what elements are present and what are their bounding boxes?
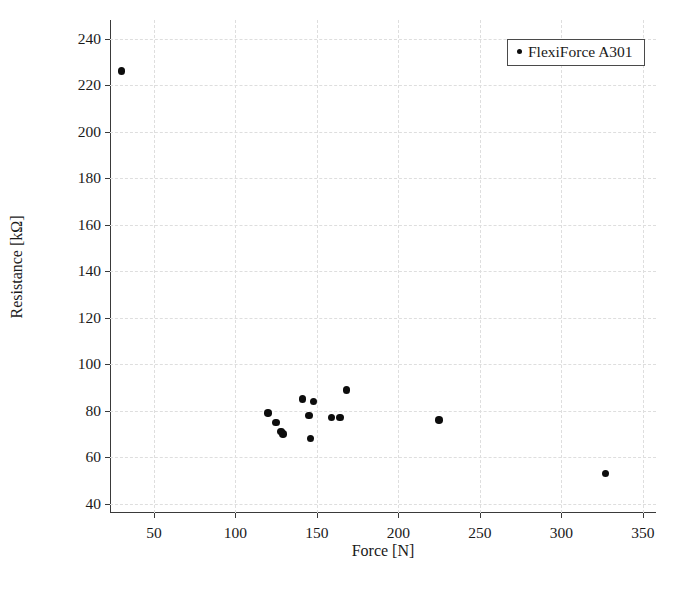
y-axis-title: Resistance [kΩ] [0, 20, 34, 513]
gridline-horizontal [110, 318, 656, 319]
x-tick-mark [235, 513, 236, 518]
gridline-vertical [398, 20, 399, 513]
x-tick-mark [154, 513, 155, 518]
x-tick-label: 350 [631, 525, 654, 541]
plot-area: 406080100120140160180200220240 501001502… [110, 20, 656, 513]
y-tick-label: 60 [86, 449, 102, 465]
gridline-horizontal [110, 271, 656, 272]
x-tick-mark [480, 513, 481, 518]
y-tick-mark [105, 318, 110, 319]
y-tick-label: 160 [78, 217, 101, 233]
gridline-vertical [480, 20, 481, 513]
y-tick-label: 220 [78, 77, 101, 93]
y-tick-label: 140 [78, 263, 101, 279]
x-axis-title: Force [N] [110, 543, 656, 559]
x-tick-mark [643, 513, 644, 518]
y-tick-mark [105, 411, 110, 412]
gridline-horizontal [110, 178, 656, 179]
y-tick-mark [105, 364, 110, 365]
gridline-vertical [235, 20, 236, 513]
y-tick-mark [105, 225, 110, 226]
data-point [279, 430, 287, 438]
gridline-horizontal [110, 364, 656, 365]
y-tick-label: 200 [78, 124, 101, 140]
x-tick-label: 150 [305, 525, 328, 541]
axis-frame [110, 20, 656, 513]
y-tick-label: 180 [78, 170, 101, 186]
y-tick-label: 40 [86, 496, 102, 512]
gridline-horizontal [110, 85, 656, 86]
gridline-vertical [561, 20, 562, 513]
gridline-horizontal [110, 457, 656, 458]
gridline-horizontal [110, 504, 656, 505]
data-point [272, 419, 280, 427]
gridline-horizontal [110, 225, 656, 226]
y-axis-title-text: Resistance [kΩ] [9, 215, 25, 318]
data-point [435, 416, 443, 424]
x-tick-mark [398, 513, 399, 518]
data-point [299, 395, 307, 403]
data-point [343, 386, 351, 394]
y-tick-label: 100 [78, 356, 101, 372]
y-tick-label: 80 [86, 403, 102, 419]
x-tick-label: 50 [146, 525, 162, 541]
legend-item-label: FlexiForce A301 [528, 44, 633, 60]
y-tick-mark [105, 39, 110, 40]
x-tick-label: 100 [224, 525, 247, 541]
gridline-vertical [317, 20, 318, 513]
scatter-chart-figure: 406080100120140160180200220240 501001502… [0, 0, 693, 589]
y-tick-label: 120 [78, 310, 101, 326]
data-point [305, 412, 313, 420]
gridline-horizontal [110, 411, 656, 412]
data-point [336, 414, 344, 422]
y-tick-mark [105, 457, 110, 458]
x-tick-label: 200 [387, 525, 410, 541]
gridline-horizontal [110, 132, 656, 133]
y-tick-mark [105, 271, 110, 272]
y-tick-mark [105, 85, 110, 86]
y-tick-mark [105, 504, 110, 505]
x-tick-label: 300 [550, 525, 573, 541]
dot-marker-icon [517, 49, 522, 54]
y-tick-mark [105, 132, 110, 133]
x-tick-mark [317, 513, 318, 518]
y-tick-label: 240 [78, 31, 101, 47]
data-point [264, 409, 272, 417]
chart-legend: FlexiForce A301 [507, 39, 645, 66]
x-tick-label: 250 [468, 525, 491, 541]
y-tick-mark [105, 178, 110, 179]
gridline-vertical [154, 20, 155, 513]
gridline-vertical [643, 20, 644, 513]
x-tick-mark [561, 513, 562, 518]
data-point [118, 67, 126, 75]
